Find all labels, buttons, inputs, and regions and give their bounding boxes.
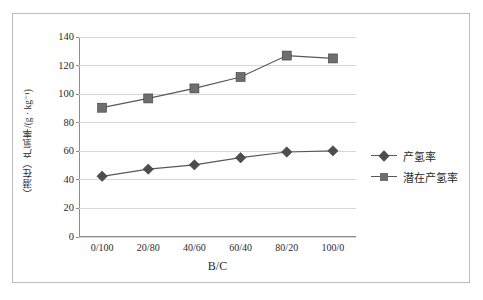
x-tick-label: 0/100: [91, 243, 114, 253]
y-tick-label: 0: [69, 232, 74, 243]
data-point-square: [98, 103, 107, 112]
y-tick-label: 100: [58, 89, 74, 100]
data-point-diamond: [328, 146, 338, 156]
plot-area: 020406080100120140 0/10020/8040/6060/408…: [79, 37, 356, 237]
data-point-diamond: [235, 153, 245, 163]
y-tick-label: 60: [64, 146, 75, 157]
series-plot: [79, 37, 356, 237]
data-point-square: [236, 73, 245, 82]
x-tick-label: 80/20: [275, 243, 298, 253]
y-axis-title: （潜在）产氢率/(g · kg⁻¹): [23, 54, 39, 234]
chart-legend: 产氢率 潜在产氢率: [371, 145, 471, 187]
figure-frame: （潜在）产氢率/(g · kg⁻¹) 020406080100120140 0/…: [12, 13, 470, 283]
square-marker-icon: [371, 171, 397, 183]
legend-item-hydrogen-rate: 产氢率: [371, 145, 471, 166]
data-point-diamond: [189, 160, 199, 170]
legend-item-potential-hydrogen-rate: 潜在产氢率: [371, 166, 471, 187]
legend-label: 潜在产氢率: [403, 169, 458, 185]
data-point-square: [282, 51, 291, 60]
x-tick-label: 60/40: [229, 243, 252, 253]
y-tick-label: 120: [58, 60, 74, 71]
diamond-marker-icon: [371, 150, 397, 162]
data-point-square: [328, 54, 337, 63]
series-line: [102, 151, 333, 176]
y-tick-label: 80: [64, 117, 75, 128]
x-tick-label: 100/0: [322, 243, 345, 253]
data-point-diamond: [97, 171, 107, 181]
legend-label: 产氢率: [403, 148, 436, 164]
y-tick-label: 140: [58, 32, 74, 43]
x-tick-label: 40/60: [183, 243, 206, 253]
x-tick-label: 20/80: [137, 243, 160, 253]
data-point-square: [144, 94, 153, 103]
x-axis-title: B/C: [79, 259, 356, 274]
data-point-square: [190, 84, 199, 93]
y-tick-label: 40: [64, 175, 75, 186]
y-tick-label: 20: [64, 203, 75, 214]
data-point-diamond: [143, 164, 153, 174]
data-point-diamond: [282, 147, 292, 157]
series-line: [102, 56, 333, 108]
